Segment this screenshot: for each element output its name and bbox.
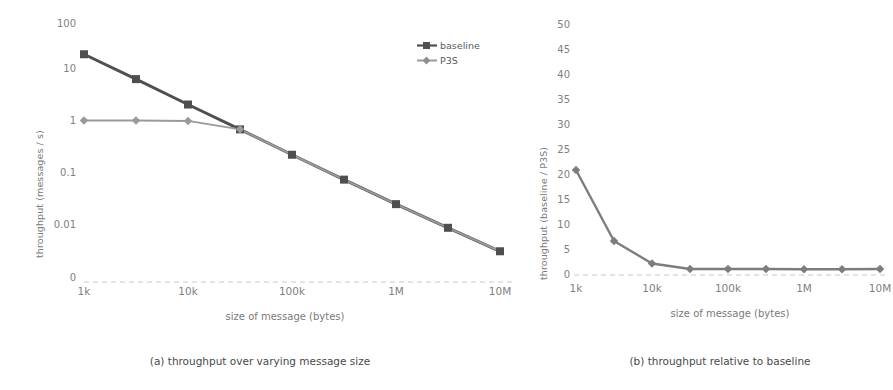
data-point-marker (132, 75, 140, 83)
panel-a-series-group (80, 50, 504, 255)
series-line-ratio (576, 170, 880, 269)
panel-b-plot-area (520, 0, 893, 330)
data-point-marker (392, 200, 400, 208)
panel-b-xtick-10M: 10M (850, 283, 893, 294)
panel-b-x-axis-title: size of message (bytes) (600, 308, 860, 319)
baseline-marker-icon (417, 41, 437, 50)
data-point-marker (800, 265, 809, 274)
data-point-marker (288, 151, 296, 159)
p3s-marker-icon (417, 56, 437, 65)
panel-b-series-group (572, 166, 885, 274)
data-point-marker (686, 265, 695, 274)
panel-a-xtick-100k: 100k (262, 286, 322, 297)
data-point-marker (838, 265, 847, 274)
panel-b-xtick-1k: 1k (546, 283, 606, 294)
data-point-marker (184, 117, 193, 126)
panel-a-x-axis-title: size of message (bytes) (155, 311, 415, 322)
data-point-marker (762, 265, 771, 274)
panel-b-ratio-chart: throughput (baseline / P3S) 50 45 40 35 … (520, 0, 893, 390)
data-point-marker (496, 247, 504, 255)
panel-b-xtick-100k: 100k (698, 283, 758, 294)
data-point-marker (340, 176, 348, 184)
figure-root: throughput (messages / s) 100 10 1 0.1 0… (0, 0, 893, 390)
panel-a-xtick-10k: 10k (158, 286, 218, 297)
data-point-marker (184, 101, 192, 109)
legend-label-p3s: P3S (440, 53, 458, 68)
panel-b-svg (520, 0, 893, 330)
data-point-marker (444, 224, 452, 232)
panel-a-xtick-1k: 1k (54, 286, 114, 297)
panel-a-legend: baseline P3S (417, 38, 480, 68)
data-point-marker (132, 116, 141, 125)
data-point-marker (572, 166, 581, 175)
panel-a-throughput-chart: throughput (messages / s) 100 10 1 0.1 0… (0, 0, 520, 390)
panel-b-xtick-1M: 1M (774, 283, 834, 294)
legend-item-p3s[interactable]: P3S (417, 53, 480, 68)
data-point-marker (80, 50, 88, 58)
legend-item-baseline[interactable]: baseline (417, 38, 480, 53)
legend-label-baseline: baseline (440, 38, 480, 53)
panel-b-caption: (b) throughput relative to baseline (570, 355, 870, 367)
panel-b-xtick-10k: 10k (622, 283, 682, 294)
series-line-p3s (84, 121, 500, 252)
data-point-marker (724, 265, 733, 274)
panel-a-xtick-1M: 1M (366, 286, 426, 297)
panel-a-caption: (a) throughput over varying message size (60, 355, 460, 367)
data-point-marker (80, 116, 89, 125)
data-point-marker (876, 265, 885, 274)
